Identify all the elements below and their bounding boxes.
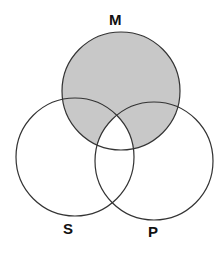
label-m: M: [109, 12, 122, 27]
venn-svg: [0, 0, 224, 253]
venn-diagram: M S P: [0, 0, 224, 253]
label-p: P: [148, 224, 158, 239]
label-s: S: [63, 221, 73, 236]
